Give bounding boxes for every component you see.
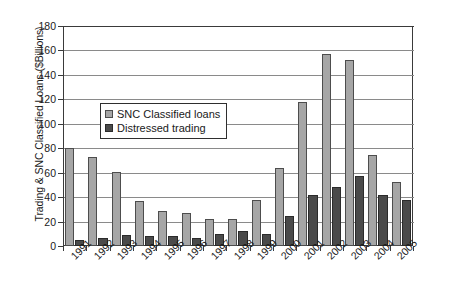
bar-group [275, 26, 294, 246]
y-tick-label-80: 80 [16, 143, 56, 153]
y-tick-label-100: 100 [16, 119, 56, 129]
y-tick-label-140: 140 [16, 70, 56, 80]
x-tick-mark-2004 [366, 246, 367, 251]
bar-snc-1994 [135, 201, 144, 246]
x-tick-mark-1992 [86, 246, 87, 251]
legend: SNC Classified loans Distressed trading [100, 103, 227, 139]
bar-snc-2001 [298, 102, 307, 246]
x-tick-mark-1994 [133, 246, 134, 251]
bar-snc-2000 [275, 168, 284, 246]
legend-label-distressed: Distressed trading [117, 122, 206, 134]
bar-group [345, 26, 364, 246]
y-tick-label-20: 20 [16, 217, 56, 227]
legend-item-distressed: Distressed trading [105, 121, 220, 135]
x-tick-mark-2003 [343, 246, 344, 251]
x-tick-mark-2005 [390, 246, 391, 251]
y-tick-label-180: 180 [16, 21, 56, 31]
bar-group [368, 26, 387, 246]
bar-snc-1993 [112, 172, 121, 246]
bar-group [322, 26, 341, 246]
x-tick-mark-1995 [156, 246, 157, 251]
x-tick-mark-1993 [110, 246, 111, 251]
bar-snc-2004 [368, 155, 377, 246]
x-tick-mark-1996 [180, 246, 181, 251]
legend-item-snc: SNC Classified loans [105, 107, 220, 121]
bar-snc-2005 [392, 182, 401, 246]
bar-group [298, 26, 317, 246]
y-tick-label-40: 40 [16, 192, 56, 202]
x-tick-mark-1998 [226, 246, 227, 251]
x-tick-mark-2000 [273, 246, 274, 251]
y-tick-label-160: 160 [16, 45, 56, 55]
y-tick-label-120: 120 [16, 94, 56, 104]
bar-chart: Trading & SNC Classified Loans ($Billion… [0, 0, 460, 302]
x-tick-mark-1997 [203, 246, 204, 251]
y-tick-label-60: 60 [16, 168, 56, 178]
x-tick-mark-1999 [250, 246, 251, 251]
bar-group [252, 26, 271, 246]
x-tick-mark-1991 [63, 246, 64, 251]
bar-snc-1991 [65, 148, 74, 246]
bar-snc-1999 [252, 200, 261, 246]
bar-snc-1992 [88, 157, 97, 246]
bar-distressed-2003 [355, 176, 364, 246]
bar-group [65, 26, 84, 246]
legend-swatch-snc-icon [105, 110, 113, 118]
x-tick-mark-end [413, 246, 414, 251]
bar-group [392, 26, 411, 246]
y-tick-label-0: 0 [16, 241, 56, 251]
bar-group [228, 26, 247, 246]
x-tick-mark-2001 [296, 246, 297, 251]
bar-snc-2003 [345, 60, 354, 246]
bar-snc-2002 [322, 54, 331, 247]
legend-swatch-distressed-icon [105, 124, 113, 132]
x-tick-mark-2002 [320, 246, 321, 251]
legend-label-snc: SNC Classified loans [117, 108, 220, 120]
